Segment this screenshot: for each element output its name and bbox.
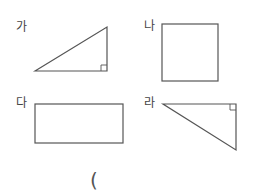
answer-parenthesis: ( (90, 170, 98, 190)
square-na (162, 24, 218, 81)
rectangle-da (35, 104, 123, 143)
triangle-ra (163, 104, 236, 150)
right-angle-marker-ga (101, 65, 107, 71)
triangle-ga (35, 27, 107, 71)
right-angle-marker-ra (230, 104, 236, 110)
figures-canvas (0, 0, 255, 192)
